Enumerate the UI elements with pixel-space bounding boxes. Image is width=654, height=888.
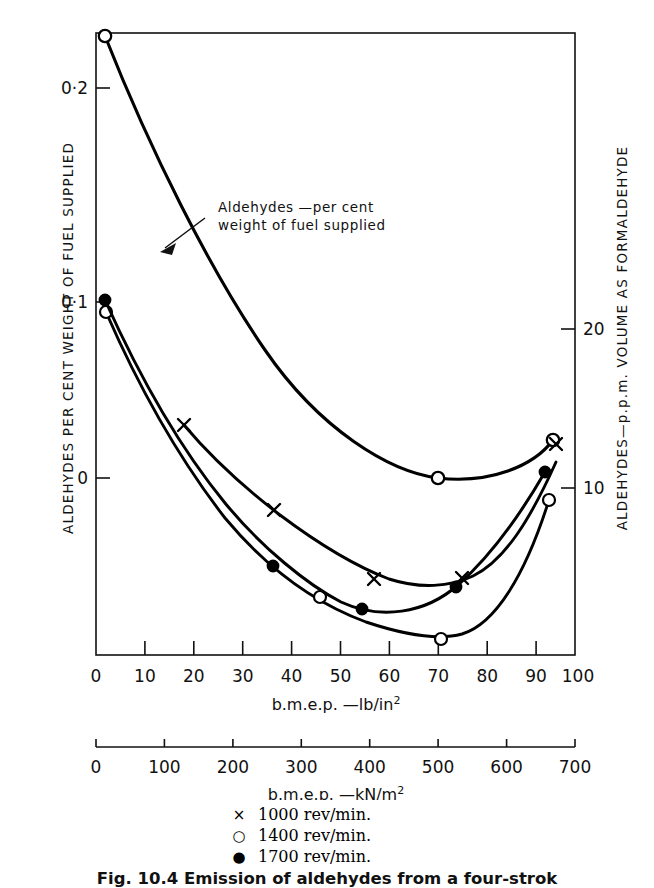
filled-circle-marker xyxy=(450,581,461,592)
curve-aldehydes-per-cent xyxy=(105,36,553,479)
x-axis-secondary-title-sup: 2 xyxy=(397,784,404,797)
x-tick-label: 20 xyxy=(183,666,205,686)
open-circle-marker xyxy=(99,30,111,42)
curve-1400-rev-min xyxy=(106,312,549,637)
x-axis-primary-labels: 0 10 20 30 40 50 60 70 80 90 100 xyxy=(91,666,595,686)
x-tick-label: 10 xyxy=(134,666,156,686)
right-tick-labels: 20 10 xyxy=(583,319,605,498)
x-tick-label: 40 xyxy=(281,666,303,686)
plot-frame xyxy=(96,33,575,655)
open-circle-marker-icon: ○ xyxy=(228,827,250,845)
x-tick-label: 50 xyxy=(330,666,352,686)
x-tick-label-secondary: 0 xyxy=(91,757,102,777)
filled-circle-marker xyxy=(267,560,278,571)
x-tick-label-secondary: 200 xyxy=(217,757,249,777)
left-axis-title: ALDEHYDES PER CENT WEIGHT OF FUEL SUPPLI… xyxy=(60,38,76,638)
curve-annotation-line2: weight of fuel supplied xyxy=(218,216,386,234)
curve-1700-rev-min xyxy=(105,300,545,612)
x-axis-primary-title: b.m.e.p. —lb/in2 xyxy=(272,694,401,714)
x-tick-label: 0 xyxy=(91,666,102,686)
curve-1000-rev-min xyxy=(184,425,556,585)
x-axis-secondary-title: b.m.e.p. —kN/m2 xyxy=(268,784,404,800)
legend-item-1000: ×1000 rev/min. xyxy=(228,804,371,824)
plot-border xyxy=(96,33,575,655)
x-axis-primary-title-sup: 2 xyxy=(393,694,400,707)
x-tick-label-secondary: 300 xyxy=(285,757,317,777)
x-tick-label-secondary: 100 xyxy=(148,757,180,777)
filled-circle-marker-icon: ● xyxy=(228,848,250,866)
x-tick-label: 80 xyxy=(476,666,498,686)
arrow-head-icon xyxy=(160,243,176,255)
x-axis-primary-title-text: b.m.e.p. —lb/in xyxy=(272,695,394,714)
cross-marker-icon: × xyxy=(228,806,250,824)
x-tick-label-secondary: 400 xyxy=(353,757,385,777)
x-axis-primary-ticks xyxy=(145,641,536,655)
right-tick-label: 10 xyxy=(583,478,605,498)
left-tick-label: 0 xyxy=(77,468,88,488)
x-tick-label-secondary: 600 xyxy=(490,757,522,777)
cross-markers-1000 xyxy=(178,419,562,585)
figure-aldehyde-emission: 0·2 0·1 0 20 10 0 10 20 30 40 50 60 70 8… xyxy=(0,0,654,888)
left-axis-ticks xyxy=(96,88,110,478)
right-axis-title: ALDEHYDES—p.p.m. VOLUME AS FORMALDEHYDE xyxy=(614,38,630,638)
figure-caption: Fig. 10.4 Emission of aldehydes from a f… xyxy=(0,869,654,888)
right-tick-label: 20 xyxy=(583,319,605,339)
x-tick-label: 100 xyxy=(562,666,594,686)
filled-circle-marker xyxy=(539,466,550,477)
right-axis-ticks xyxy=(561,329,575,488)
filled-circle-marker xyxy=(99,294,110,305)
x-axis-secondary: 0 100 200 300 400 500 600 700 b.m.e.p. —… xyxy=(91,739,592,800)
series-1000-rev-min xyxy=(178,419,562,585)
filled-circle-marker xyxy=(356,603,367,614)
open-circle-marker xyxy=(543,494,555,506)
x-tick-label: 90 xyxy=(525,666,547,686)
x-tick-label-secondary: 700 xyxy=(559,757,591,777)
x-tick-label: 30 xyxy=(232,666,254,686)
x-tick-label: 70 xyxy=(427,666,449,686)
legend-label: 1000 rev/min. xyxy=(258,805,371,824)
chart-canvas: 0·2 0·1 0 20 10 0 10 20 30 40 50 60 70 8… xyxy=(0,0,654,800)
x-tick-label: 60 xyxy=(379,666,401,686)
x-axis-secondary-labels: 0 100 200 300 400 500 600 700 xyxy=(91,757,592,777)
legend-item-1400: ○1400 rev/min. xyxy=(228,825,371,845)
open-circle-marker xyxy=(432,472,444,484)
curve-annotation: Aldehydes —per cent weight of fuel suppl… xyxy=(218,198,386,234)
x-axis-secondary-ticks xyxy=(96,739,575,747)
legend-item-1700: ●1700 rev/min. xyxy=(228,846,371,866)
series-1700-rev-min xyxy=(99,294,550,614)
legend-label: 1700 rev/min. xyxy=(258,847,371,866)
legend-label: 1400 rev/min. xyxy=(258,826,371,845)
x-tick-label-secondary: 500 xyxy=(422,757,454,777)
x-axis-secondary-title-text: b.m.e.p. —kN/m xyxy=(268,785,397,800)
leader-line xyxy=(165,218,205,248)
open-circle-marker xyxy=(435,633,447,645)
series-aldehydes-per-cent xyxy=(99,30,559,484)
curve-annotation-line1: Aldehydes —per cent xyxy=(218,198,386,216)
